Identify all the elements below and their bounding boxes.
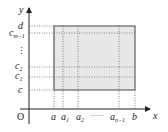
y-tick-labels: d cm−1 ⋮ c2 c1 c <box>9 20 26 95</box>
y-tick-d: d <box>18 20 24 31</box>
x-tick-an1: an−1 <box>110 111 125 123</box>
x-tick-b: b <box>132 111 137 122</box>
x-tick-a: a <box>51 111 56 122</box>
origin-label: O <box>17 111 24 122</box>
y-tick-c: c <box>18 84 23 95</box>
x-tick-a1: a1 <box>61 111 69 123</box>
x-tick-labels: a a1 a2 ······ an−1 b <box>51 111 137 123</box>
y-axis-label: y <box>18 4 24 15</box>
x-tick-a2: a2 <box>76 111 84 123</box>
region-rectangle <box>54 26 135 90</box>
partition-diagram: y x O d cm−1 ⋮ c2 c1 c a a1 a2 ······ an… <box>0 0 168 132</box>
x-axis-label: x <box>152 110 158 121</box>
x-ellipsis: ······ <box>90 112 104 120</box>
y-ellipsis: ⋮ <box>17 46 26 56</box>
